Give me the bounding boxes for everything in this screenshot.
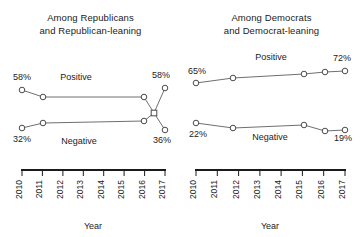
republican-left-top-value: 58% <box>13 72 31 82</box>
republican-negative-label: Negative <box>61 136 97 146</box>
democrat-plot: Positive Negative 65% 22% 72% 19% 2010 2… <box>181 0 362 237</box>
republican-tick-label-2010: 2010 <box>14 180 24 199</box>
republican-tick-label-2017: 2017 <box>157 180 167 199</box>
democrat-tick-label-2014: 2014 <box>273 180 283 199</box>
republican-tick-label-2015: 2015 <box>116 180 126 199</box>
democrat-negative-point <box>301 122 307 128</box>
republican-positive-point <box>141 94 147 100</box>
democrat-x-axis-title: Year <box>261 221 279 231</box>
republican-x-axis-title: Year <box>84 221 102 231</box>
republican-positive-point <box>162 127 168 133</box>
republican-tick-label-2014: 2014 <box>96 180 106 199</box>
democrat-tick-label-2011: 2011 <box>209 180 219 199</box>
panel-democrats: Among Democrats and Democrat-leaning Pos… <box>181 0 362 237</box>
republican-negative-point <box>141 118 147 124</box>
democrat-negative-point <box>322 128 328 134</box>
republican-positive-point <box>19 87 25 93</box>
republican-plot: Positive Negative 58% 32% 58% 36% 2010 2… <box>0 0 181 237</box>
democrat-tick-label-2015: 2015 <box>294 180 304 199</box>
democrat-positive-point <box>342 68 348 74</box>
republican-tick-label-2012: 2012 <box>55 180 65 199</box>
democrat-tick-label-2012: 2012 <box>231 180 241 199</box>
republican-tick-label-2016: 2016 <box>137 180 147 199</box>
republican-crossover-point <box>151 110 157 116</box>
republican-positive-point <box>40 94 46 100</box>
republican-left-bottom-value: 32% <box>13 134 31 144</box>
democrat-tick-label-2017: 2017 <box>337 180 347 199</box>
republican-negative-point <box>40 120 46 126</box>
republican-tick-label-2011: 2011 <box>34 180 44 199</box>
republican-negative-point <box>162 85 168 91</box>
democrat-negative-point <box>193 120 199 126</box>
democrat-positive-point <box>322 69 328 75</box>
chart-figure: Among Republicans and Republican-leaning… <box>0 0 363 237</box>
democrat-negative-point <box>342 127 348 133</box>
democrat-positive-label: Positive <box>255 52 287 62</box>
democrat-tick-label-2010: 2010 <box>188 180 198 199</box>
panel-republicans: Among Republicans and Republican-leaning… <box>0 0 181 237</box>
democrat-positive-point <box>301 71 307 77</box>
democrat-tick-label-2016: 2016 <box>316 180 326 199</box>
democrat-left-bottom-value: 22% <box>189 129 207 139</box>
democrat-tick-label-2013: 2013 <box>252 180 262 199</box>
democrat-positive-point <box>193 80 199 86</box>
democrat-negative-point <box>230 125 236 131</box>
republican-negative-point <box>19 125 25 131</box>
republican-right-top-value: 58% <box>152 70 170 80</box>
republican-tick-label-2013: 2013 <box>75 180 85 199</box>
democrat-right-top-value: 72% <box>333 53 351 63</box>
democrat-negative-label: Negative <box>252 132 288 142</box>
democrat-right-bottom-value: 19% <box>334 133 352 143</box>
democrat-left-top-value: 65% <box>188 66 206 76</box>
republican-positive-label: Positive <box>60 72 92 82</box>
democrat-positive-point <box>230 75 236 81</box>
republican-right-bottom-value: 36% <box>153 135 171 145</box>
